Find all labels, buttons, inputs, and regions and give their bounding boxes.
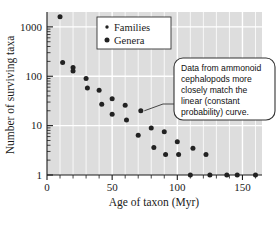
legend-label-families: Families xyxy=(114,22,150,33)
data-point xyxy=(85,85,90,90)
x-tick-label: 100 xyxy=(169,181,186,193)
data-point xyxy=(123,103,128,108)
legend: Families Genera xyxy=(97,17,171,49)
x-tick-label: 0 xyxy=(44,181,50,193)
data-point xyxy=(138,108,143,113)
data-point xyxy=(175,139,180,144)
data-point xyxy=(97,88,102,93)
data-point xyxy=(224,173,229,178)
callout-annotation: Data from ammonoid cephalopods more clos… xyxy=(174,58,275,120)
data-point xyxy=(207,173,212,178)
x-axis-title: Age of taxon (Myr) xyxy=(109,196,200,209)
callout-line-2: cephalopods more xyxy=(181,74,252,84)
x-tick-label: 150 xyxy=(234,181,251,193)
data-point xyxy=(60,60,65,65)
data-point xyxy=(149,125,154,130)
callout-line-4: linear (constant xyxy=(181,96,240,106)
data-point xyxy=(151,145,156,150)
data-point xyxy=(58,14,63,19)
y-tick-label: 1000 xyxy=(20,21,43,33)
legend-marker-families xyxy=(105,25,108,28)
data-point xyxy=(176,152,181,157)
data-point xyxy=(203,152,208,157)
chart-figure: 1101001000 050100150 Age of taxon (Myr) … xyxy=(0,0,280,225)
scatter-chart: 1101001000 050100150 Age of taxon (Myr) … xyxy=(0,0,280,225)
data-point xyxy=(190,146,195,151)
legend-label-genera: Genera xyxy=(114,35,145,46)
x-tick-label: 50 xyxy=(107,181,119,193)
y-axis-title: Number of surviving taxa xyxy=(4,36,17,155)
data-point xyxy=(71,68,76,73)
callout-line-5: probability) curve. xyxy=(181,107,249,117)
data-point xyxy=(84,76,89,81)
callout-line-3: closely match the xyxy=(181,85,248,95)
legend-marker-genera xyxy=(105,38,110,43)
data-point xyxy=(162,129,167,134)
data-point xyxy=(188,173,193,178)
data-point xyxy=(235,173,240,178)
data-point xyxy=(110,96,115,101)
data-point xyxy=(110,112,115,117)
data-point xyxy=(136,133,141,138)
callout-line-1: Data from ammonoid xyxy=(181,63,261,73)
data-point xyxy=(253,173,258,178)
y-tick-label: 1 xyxy=(37,169,43,181)
y-tick-label: 10 xyxy=(31,119,43,131)
data-point xyxy=(99,102,104,107)
y-tick-label: 100 xyxy=(26,70,43,82)
data-point xyxy=(124,117,129,122)
data-point xyxy=(163,152,168,157)
